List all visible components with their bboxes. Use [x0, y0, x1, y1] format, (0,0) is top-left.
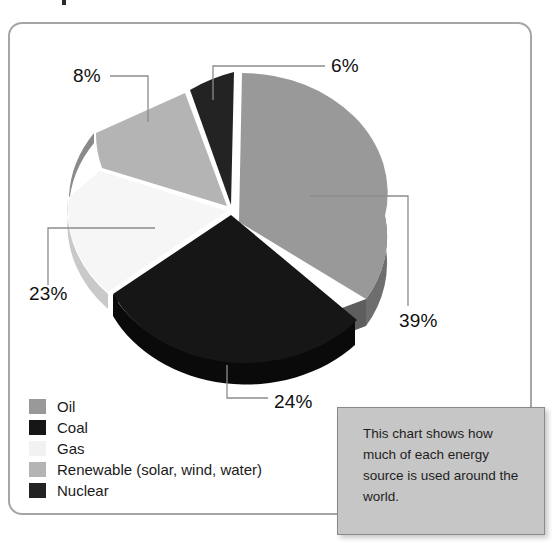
legend-label-coal: Coal [57, 419, 88, 436]
legend-item-coal: Coal [29, 417, 329, 438]
callout-note-text: This chart shows how much of each energy… [363, 423, 528, 507]
legend-label-renewable: Renewable (solar, wind, water) [57, 461, 262, 478]
chart-legend: Oil Coal Gas Renewable (solar, wind, wat… [29, 396, 329, 501]
legend-swatch-nuclear [29, 483, 46, 498]
pie-label-gas: 23% [29, 283, 68, 305]
legend-swatch-coal [29, 420, 46, 435]
pie-label-nuclear: 6% [331, 55, 359, 77]
legend-item-renewable: Renewable (solar, wind, water) [29, 459, 329, 480]
legend-label-oil: Oil [57, 398, 75, 415]
legend-label-nuclear: Nuclear [57, 482, 109, 499]
pie-label-oil: 39% [399, 310, 438, 332]
legend-swatch-renewable [29, 462, 46, 477]
legend-item-nuclear: Nuclear [29, 480, 329, 501]
legend-item-gas: Gas [29, 438, 329, 459]
pie-label-renewable: 8% [73, 65, 101, 87]
callout-note: This chart shows how much of each energy… [337, 407, 545, 535]
legend-swatch-oil [29, 399, 46, 414]
legend-item-oil: Oil [29, 396, 329, 417]
legend-swatch-gas [29, 441, 46, 456]
legend-label-gas: Gas [57, 440, 85, 457]
